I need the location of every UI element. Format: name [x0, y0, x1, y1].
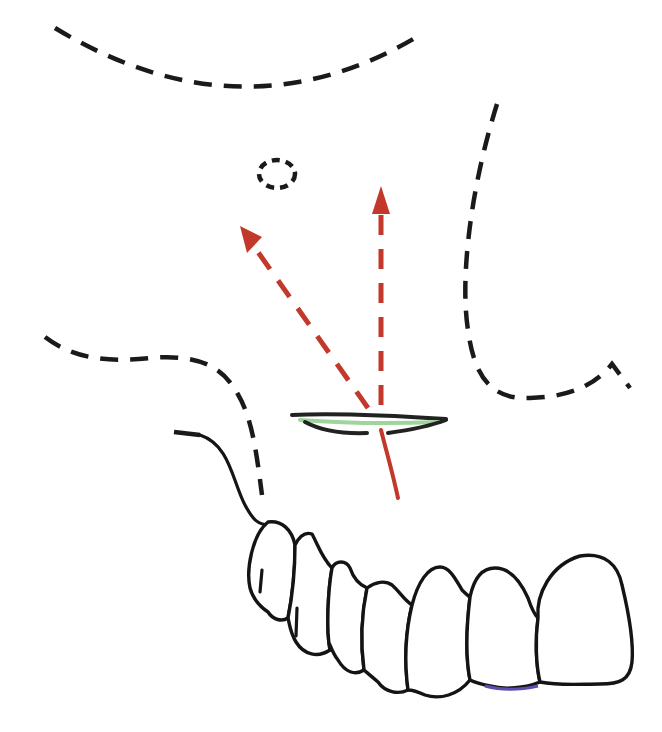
tooth-molar-2	[249, 522, 295, 620]
tooth-premolar-1	[362, 582, 412, 692]
tooth-central-incisor	[536, 555, 632, 684]
vector-origin-line	[381, 430, 398, 498]
tooth-canine	[406, 567, 470, 697]
maxilla-diagram	[0, 0, 662, 732]
dentition-group	[249, 522, 633, 697]
dashed-landmark-group	[45, 28, 630, 495]
incision-group	[292, 414, 446, 433]
infraorbital-foramen-outline	[259, 160, 295, 188]
nasal-floor-outline	[45, 337, 262, 495]
tooth-molar-2-groove	[260, 570, 262, 592]
incision-upper-edge	[292, 414, 446, 419]
incision-highlight	[300, 420, 440, 423]
arrowhead-icon	[372, 186, 390, 214]
tooth-lateral-incisor	[467, 568, 540, 688]
oblique-vector-arrow-shaft	[253, 245, 368, 408]
vector-arrow-group	[240, 186, 398, 498]
tooth-molar-1-groove	[296, 608, 297, 636]
alveolar-ridge-dash	[174, 432, 200, 435]
arrowhead-icon	[240, 226, 262, 253]
orbital-rim-outline	[55, 28, 415, 87]
zygomatic-buttress-outline	[465, 104, 630, 398]
